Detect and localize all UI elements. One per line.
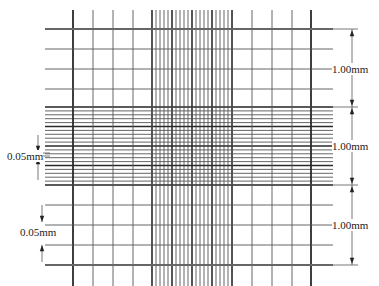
arrow-up-icon [350, 186, 354, 192]
label-right-top-1mm: 1.00mm [332, 63, 368, 75]
arrow-down-icon [350, 100, 354, 106]
hemocytometer-grid-diagram [0, 0, 379, 286]
label-right-bottom-1mm: 1.00mm [332, 219, 368, 231]
arrow-down-icon [350, 258, 354, 264]
label-right-middle-1mm: 1.00mm [332, 140, 368, 152]
arrow-up-icon [350, 108, 354, 114]
label-left-lower-0.05mm: 0.05mm [20, 226, 56, 238]
arrow-up-icon [350, 30, 354, 36]
label-left-upper-0.05mm: 0.05mm [7, 150, 43, 162]
grid-lines [45, 10, 333, 286]
arrow-down-icon [350, 178, 354, 184]
dimension-arrows [36, 29, 358, 265]
arrow-down-icon [40, 216, 44, 222]
arrow-up-icon [40, 245, 44, 251]
